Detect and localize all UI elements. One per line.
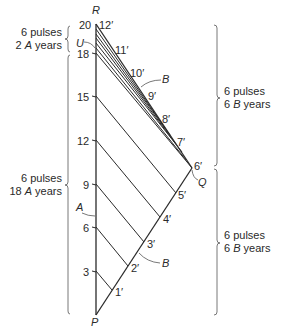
brace-left-top-text: 6 pulses 2 A years [16, 26, 63, 51]
svg-text:18: 18 [77, 48, 89, 60]
svg-text:9′: 9′ [148, 90, 156, 102]
b-tick-labels: 1′ 2′ 3′ 4′ 5′ 6′ 7′ 8′ 9′ 10′ 11′ 12′ [99, 19, 202, 298]
svg-text:8′: 8′ [162, 113, 170, 125]
vertex-p-label: P [91, 316, 99, 328]
svg-text:6′: 6′ [194, 160, 202, 172]
svg-text:2′: 2′ [131, 262, 139, 274]
brace-right-bottom-text: 6 pulses 6 B years [224, 229, 271, 254]
brace-right-bottom [214, 169, 220, 315]
a-tick-labels: 3 6 9 12 15 18 20 [77, 19, 91, 278]
svg-text:7′: 7′ [177, 136, 185, 148]
svg-text:9: 9 [83, 179, 89, 191]
vertex-q-label: Q [198, 176, 207, 188]
brace-left-bottom-text: 6 pulses 18 A years [9, 172, 62, 197]
svg-text:15: 15 [77, 91, 89, 103]
svg-text:6 pulses: 6 pulses [21, 26, 62, 38]
a-worldline-label: A [75, 201, 83, 213]
b-upper-pointer-arrow [141, 80, 161, 87]
svg-text:6: 6 [83, 222, 89, 234]
twin-paradox-spacetime-diagram: R P Q U A B B 3 6 9 12 15 18 20 1′ 2′ 3′… [0, 0, 284, 328]
vertex-r-label: R [92, 4, 100, 16]
svg-text:6 pulses: 6 pulses [224, 85, 265, 97]
svg-text:1′: 1′ [115, 286, 123, 298]
svg-text:4′: 4′ [163, 213, 171, 225]
svg-text:12′: 12′ [99, 19, 113, 31]
b-lower-pointer-arrow [139, 253, 160, 263]
brace-left-bottom [65, 55, 70, 314]
brace-left-top [65, 26, 70, 52]
b-lower-label: B [162, 257, 169, 269]
svg-text:3′: 3′ [147, 238, 155, 250]
signal-lines-return [96, 29, 186, 160]
svg-text:11′: 11′ [115, 44, 128, 56]
svg-text:12: 12 [77, 135, 89, 147]
brace-right-top-text: 6 pulses 6 B years [224, 85, 271, 110]
brace-right-top [214, 25, 220, 166]
a-pointer-arrow [82, 213, 95, 216]
svg-text:3: 3 [83, 266, 89, 278]
svg-text:6 B years: 6 B years [224, 242, 271, 254]
svg-text:6 B years: 6 B years [224, 98, 271, 110]
b-upper-label: B [162, 73, 169, 85]
svg-text:2 A years: 2 A years [16, 39, 63, 51]
svg-text:6 pulses: 6 pulses [224, 229, 265, 241]
svg-text:6 pulses: 6 pulses [21, 172, 62, 184]
signal-lines-outbound [96, 53, 192, 290]
svg-text:18 A years: 18 A years [9, 185, 62, 197]
svg-text:5′: 5′ [178, 189, 186, 201]
svg-text:20: 20 [79, 19, 91, 31]
svg-text:10′: 10′ [130, 67, 144, 79]
